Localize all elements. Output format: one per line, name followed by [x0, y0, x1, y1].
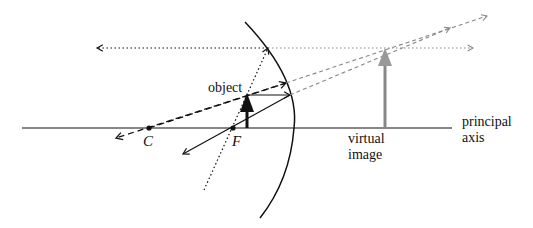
ray-diagram: object C F virtual image principal axis — [0, 0, 533, 228]
parallel-ray-virtual-extension — [290, 28, 450, 95]
object-arrow — [240, 93, 254, 128]
center-label: C — [143, 133, 154, 149]
focal-point — [230, 125, 235, 130]
focal-ray-incoming — [204, 48, 268, 190]
focus-label: F — [231, 133, 242, 149]
concave-mirror — [245, 22, 295, 218]
center-of-curvature-point — [146, 125, 151, 130]
object-label: object — [208, 80, 242, 95]
principal-axis-label-line1: principal — [462, 114, 512, 129]
virtual-image-label-line1: virtual — [348, 131, 385, 146]
principal-axis-label-line2: axis — [462, 130, 485, 145]
virtual-image-arrow — [378, 48, 392, 128]
virtual-image-label-line2: image — [348, 147, 382, 162]
